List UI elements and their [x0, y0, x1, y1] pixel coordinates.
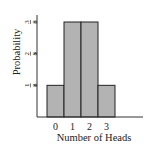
y-tick-label: 28 [23, 51, 39, 55]
x-ticks-group: 0123 [53, 121, 109, 132]
bar-1 [64, 22, 81, 117]
x-tick-label: 1 [70, 121, 75, 132]
probability-histogram: 182838 0123 Number of Heads Probability [0, 0, 153, 149]
bar-2 [81, 22, 98, 117]
y-tick-label: 38 [23, 20, 39, 24]
y-tick-denominator: 8 [31, 83, 39, 87]
bars-group [47, 22, 115, 117]
y-tick-label: 18 [23, 83, 39, 87]
y-ticks-group: 182838 [23, 20, 39, 88]
x-tick-label: 0 [53, 121, 58, 132]
x-tick-label: 3 [104, 121, 109, 132]
y-axis-label: Probability [11, 28, 22, 75]
bar-0 [47, 85, 64, 117]
y-tick-denominator: 8 [31, 20, 39, 24]
x-tick-label: 2 [87, 121, 92, 132]
bar-3 [98, 85, 115, 117]
y-tick-denominator: 8 [31, 51, 39, 55]
x-axis-label: Number of Heads [57, 132, 132, 143]
